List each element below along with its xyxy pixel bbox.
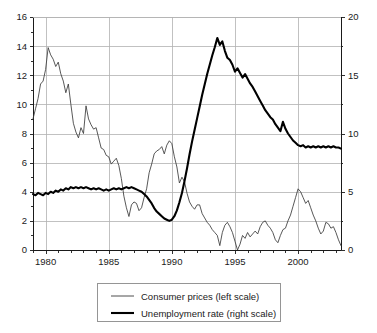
y-axis-left-tick-label: 14: [16, 41, 27, 52]
y-axis-left-tick-label: 2: [22, 215, 27, 226]
chart-canvas: 0246810121416 05101520 19801985199019952…: [0, 0, 377, 333]
legend-item-label: Unemployment rate (right scale): [141, 308, 276, 319]
y-axis-left-tick-label: 16: [16, 11, 27, 22]
y-axis-left-tick-label: 10: [16, 99, 27, 110]
chart-figure: 0246810121416 05101520 19801985199019952…: [0, 0, 377, 333]
y-axis-right-tick-label: 10: [348, 128, 359, 139]
x-axis-tick-label: 1990: [161, 256, 182, 267]
y-axis-left-tick-label: 8: [22, 128, 27, 139]
legend-item-label: Consumer prices (left scale): [141, 291, 259, 302]
chart-legend: Consumer prices (left scale)Unemployment…: [98, 284, 281, 322]
x-axis-tick-label: 1985: [98, 256, 119, 267]
x-axis-tick-label: 1980: [35, 256, 56, 267]
x-axis-tick-label: 2000: [288, 256, 309, 267]
y-axis-left-tick-label: 4: [22, 186, 27, 197]
x-axis-tick-label: 1995: [224, 256, 245, 267]
y-axis-left-tick-label: 6: [22, 157, 27, 168]
y-axis-right-tick-label: 20: [348, 11, 359, 22]
chart-background: [0, 0, 377, 333]
y-axis-left-tick-label: 12: [16, 70, 27, 81]
y-axis-right-tick-label: 5: [348, 186, 353, 197]
y-axis-right-tick-label: 15: [348, 70, 359, 81]
y-axis-left-tick-label: 0: [22, 244, 27, 255]
y-axis-right-tick-label: 0: [348, 244, 353, 255]
